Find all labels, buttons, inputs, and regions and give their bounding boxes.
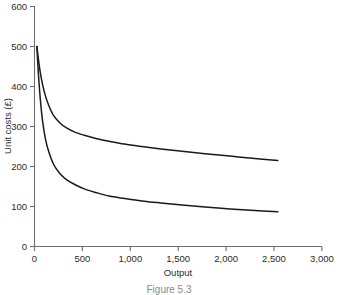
y-tick-label: 300 (11, 121, 27, 132)
x-tick-label: 2,500 (262, 253, 286, 264)
y-tick-label: 200 (11, 161, 27, 172)
y-tick-label: 400 (11, 81, 27, 92)
x-axis-ticks (35, 247, 322, 252)
figure-caption: Figure 5.3 (146, 284, 191, 295)
unit-cost-chart-figure: 0 100 200 300 400 500 600 0 500 1,000 1,… (0, 0, 338, 295)
x-tick-label: 0 (32, 253, 37, 264)
x-tick-label: 500 (74, 253, 90, 264)
x-tick-label: 2,000 (214, 253, 238, 264)
y-tick-label: 100 (11, 201, 27, 212)
y-axis-title: Unit costs (£) (2, 98, 13, 154)
x-tick-label: 3,000 (310, 253, 334, 264)
lower-unit-cost-curve (37, 47, 278, 212)
y-axis-tick-labels: 0 100 200 300 400 500 600 (11, 1, 27, 252)
chart-canvas: 0 100 200 300 400 500 600 0 500 1,000 1,… (0, 0, 338, 295)
y-tick-label: 500 (11, 41, 27, 52)
data-curves (37, 47, 278, 212)
y-tick-label: 600 (11, 1, 27, 12)
x-axis-tick-labels: 0 500 1,000 1,500 2,000 2,500 3,000 (32, 253, 334, 264)
x-axis-title: Output (164, 267, 193, 278)
upper-unit-cost-curve (37, 47, 278, 161)
y-tick-label: 0 (22, 241, 27, 252)
y-axis-ticks (30, 7, 35, 247)
x-tick-label: 1,500 (166, 253, 190, 264)
x-tick-label: 1,000 (118, 253, 142, 264)
